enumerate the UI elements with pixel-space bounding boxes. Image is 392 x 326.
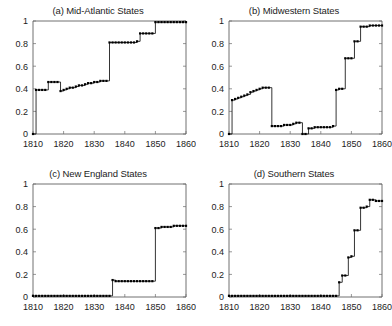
data-point-marker	[121, 280, 123, 282]
data-point-marker	[329, 126, 331, 128]
data-point-marker	[332, 295, 334, 297]
y-tick-label: 1	[219, 16, 224, 26]
data-point-marker	[41, 295, 43, 297]
data-point-marker	[72, 295, 74, 297]
y-tick-label: 0.8	[211, 39, 224, 49]
data-point-marker	[271, 295, 273, 297]
figure-four-panel-chart: (a) Mid-Atlantic States 1810182018301840…	[0, 0, 392, 326]
panel-b-plot: 18101820183018401850186000.20.40.60.81	[196, 0, 392, 163]
y-tick-label: 1	[23, 16, 28, 26]
data-point-marker	[255, 89, 257, 91]
panel-a-plot: 18101820183018401850186000.20.40.60.81	[0, 0, 196, 163]
x-tick-label: 1820	[54, 139, 74, 149]
data-point-marker	[381, 24, 383, 26]
data-point-marker	[38, 89, 40, 91]
data-point-marker	[182, 225, 184, 227]
data-point-marker	[93, 295, 95, 297]
data-point-marker	[317, 295, 319, 297]
data-point-marker	[277, 125, 279, 127]
data-point-marker	[151, 32, 153, 34]
data-point-marker	[145, 280, 147, 282]
data-point-marker	[154, 21, 156, 23]
data-point-marker	[90, 82, 92, 84]
data-point-marker	[115, 280, 117, 282]
data-point-marker	[133, 41, 135, 43]
data-point-marker	[353, 229, 355, 231]
data-point-marker	[326, 126, 328, 128]
data-point-marker	[262, 295, 264, 297]
data-point-marker	[163, 226, 165, 228]
x-tick-label: 1860	[372, 302, 392, 312]
y-tick-label: 0	[219, 129, 224, 139]
data-point-marker	[75, 295, 77, 297]
data-point-marker	[151, 280, 153, 282]
y-tick-label: 0.6	[15, 62, 28, 72]
data-point-marker	[329, 295, 331, 297]
data-point-marker	[96, 81, 98, 83]
data-point-marker	[332, 125, 334, 127]
data-point-marker	[280, 125, 282, 127]
data-point-marker	[268, 295, 270, 297]
y-tick-label: 0	[23, 129, 28, 139]
data-point-marker	[56, 81, 58, 83]
x-tick-label: 1820	[250, 302, 270, 312]
x-tick-label: 1850	[341, 139, 361, 149]
data-point-marker	[44, 295, 46, 297]
data-point-marker	[50, 81, 52, 83]
data-point-marker	[133, 280, 135, 282]
data-point-marker	[139, 280, 141, 282]
data-point-marker	[375, 24, 377, 26]
data-point-marker	[255, 295, 257, 297]
data-point-marker	[81, 84, 83, 86]
data-point-marker	[240, 96, 242, 98]
x-tick-label: 1860	[372, 139, 392, 149]
data-point-marker	[111, 41, 113, 43]
x-tick-label: 1810	[219, 139, 239, 149]
data-point-marker	[298, 122, 300, 124]
data-point-marker	[41, 89, 43, 91]
data-point-marker	[32, 133, 34, 135]
data-point-marker	[35, 295, 37, 297]
data-point-marker	[78, 84, 80, 86]
x-tick-label: 1810	[23, 302, 43, 312]
data-point-marker	[170, 226, 172, 228]
data-point-marker	[314, 126, 316, 128]
data-point-marker	[381, 200, 383, 202]
data-point-marker	[252, 90, 254, 92]
data-point-marker	[335, 295, 337, 297]
data-point-marker	[99, 295, 101, 297]
data-point-marker	[289, 295, 291, 297]
data-point-marker	[118, 41, 120, 43]
data-series-line	[229, 26, 382, 134]
x-tick-label: 1820	[250, 139, 270, 149]
data-point-marker	[93, 81, 95, 83]
data-point-marker	[99, 80, 101, 82]
data-point-marker	[317, 126, 319, 128]
data-point-marker	[366, 26, 368, 28]
x-tick-label: 1850	[341, 302, 361, 312]
x-tick-label: 1830	[280, 302, 300, 312]
data-point-marker	[136, 280, 138, 282]
data-point-marker	[78, 295, 80, 297]
data-point-marker	[182, 21, 184, 23]
data-point-marker	[353, 40, 355, 42]
panel-c-plot: 18101820183018401850186000.20.40.60.81	[0, 163, 196, 326]
data-point-marker	[292, 123, 294, 125]
x-tick-label: 1860	[176, 302, 196, 312]
x-tick-label: 1830	[84, 139, 104, 149]
x-tick-label: 1840	[311, 139, 331, 149]
data-point-marker	[59, 295, 61, 297]
data-point-marker	[142, 280, 144, 282]
data-point-marker	[243, 295, 245, 297]
data-point-marker	[344, 57, 346, 59]
data-point-marker	[286, 295, 288, 297]
data-point-marker	[274, 125, 276, 127]
data-point-marker	[105, 295, 107, 297]
data-point-marker	[63, 89, 65, 91]
data-point-marker	[170, 21, 172, 23]
data-point-marker	[277, 295, 279, 297]
data-point-marker	[47, 81, 49, 83]
data-point-marker	[154, 227, 156, 229]
data-point-marker	[130, 41, 132, 43]
data-point-marker	[298, 295, 300, 297]
